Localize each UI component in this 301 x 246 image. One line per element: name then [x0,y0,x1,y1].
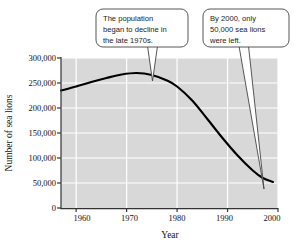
y-tick-label: 100,000 [28,153,56,163]
x-tick-label: 2000 [264,213,281,223]
callout-remaining-line: 50,000 sea lions [210,25,266,34]
y-tick-label: 150,000 [28,128,56,138]
x-tick-label: 1990 [216,213,233,223]
line-chart: 300,000 250,000 200,000 150,000 100,000 … [0,0,301,246]
callout-remaining-line: were left. [209,36,241,45]
y-tick-label: 0 [52,203,56,213]
callout-decline-line: The population [103,14,153,23]
y-axis-title: Number of sea lions [4,94,14,171]
x-tick-label: 1980 [169,213,186,223]
y-tick-label: 50,000 [33,178,56,188]
x-tick-label: 1970 [121,213,138,223]
x-axis-title: Year [161,230,179,240]
y-tick-label: 250,000 [28,78,56,88]
callout-decline-line: the late 1970s. [103,36,153,45]
x-tick-label: 1960 [74,213,91,223]
y-tick-label: 300,000 [28,53,56,63]
callout-decline-line: began to decline in [103,25,167,34]
y-tick-label: 200,000 [28,103,56,113]
callout-remaining-line: By 2000, only [210,14,256,23]
sea-lion-population-figure: 300,000 250,000 200,000 150,000 100,000 … [0,0,301,246]
